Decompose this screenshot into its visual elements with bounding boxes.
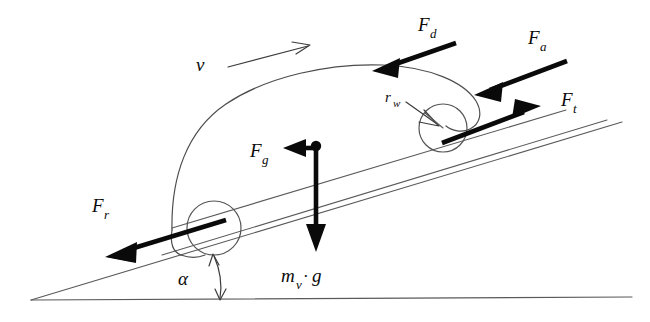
inclination-angle-symbol: α bbox=[178, 268, 189, 289]
drag-force-symbol: F bbox=[417, 14, 430, 35]
grade-force-arrow bbox=[283, 139, 314, 157]
rolling-force-symbol: F bbox=[91, 195, 104, 216]
traction-force-arrow bbox=[442, 99, 541, 143]
grade-force-label: F g bbox=[249, 140, 269, 167]
weight-gravity-symbol: g bbox=[312, 265, 322, 286]
drag-force-label: F d bbox=[417, 14, 437, 41]
velocity-arrow bbox=[228, 42, 310, 67]
grade-force-symbol: F bbox=[249, 140, 262, 161]
acceleration-force-arrow bbox=[474, 61, 567, 102]
weight-force-arrow bbox=[306, 150, 326, 252]
weight-operator: · bbox=[303, 267, 309, 286]
force-diagram-figure: v F d F a F t bbox=[0, 0, 650, 322]
acceleration-force-symbol: F bbox=[527, 27, 540, 48]
rolling-force-label: F r bbox=[91, 195, 110, 222]
traction-force-symbol: F bbox=[560, 89, 573, 110]
wheel-radius-symbol: r bbox=[385, 89, 391, 105]
chassis-underside-line bbox=[162, 120, 607, 255]
rear-wheel-arch bbox=[181, 255, 205, 257]
inclined-road-line bbox=[31, 122, 622, 300]
rolling-force-subscript: r bbox=[104, 207, 110, 222]
drag-force-arrow bbox=[372, 43, 456, 78]
grade-force-subscript: g bbox=[262, 152, 269, 167]
traction-force-subscript: t bbox=[573, 101, 577, 116]
inclination-angle-indicator bbox=[209, 254, 226, 300]
velocity-symbol: v bbox=[196, 54, 205, 75]
wheel-radius-subscript: w bbox=[393, 97, 401, 109]
ground-reference-line bbox=[31, 297, 632, 300]
weight-mass-subscript: v bbox=[296, 277, 302, 292]
chassis-sill-line bbox=[172, 110, 566, 228]
wheel-radius-leader bbox=[406, 102, 443, 128]
velocity-label: v bbox=[196, 54, 205, 75]
acceleration-force-subscript: a bbox=[540, 39, 547, 54]
traction-force-label: F t bbox=[560, 89, 577, 116]
diagram-canvas: v F d F a F t bbox=[0, 0, 650, 322]
wheel-radius-label: r w bbox=[385, 89, 401, 109]
drag-force-subscript: d bbox=[430, 26, 437, 41]
inclination-angle-label: α bbox=[178, 268, 189, 289]
weight-force-label: m v · g bbox=[281, 265, 322, 292]
acceleration-force-label: F a bbox=[527, 27, 547, 54]
weight-mass-symbol: m bbox=[281, 265, 295, 286]
center-of-mass-dot bbox=[311, 141, 321, 151]
